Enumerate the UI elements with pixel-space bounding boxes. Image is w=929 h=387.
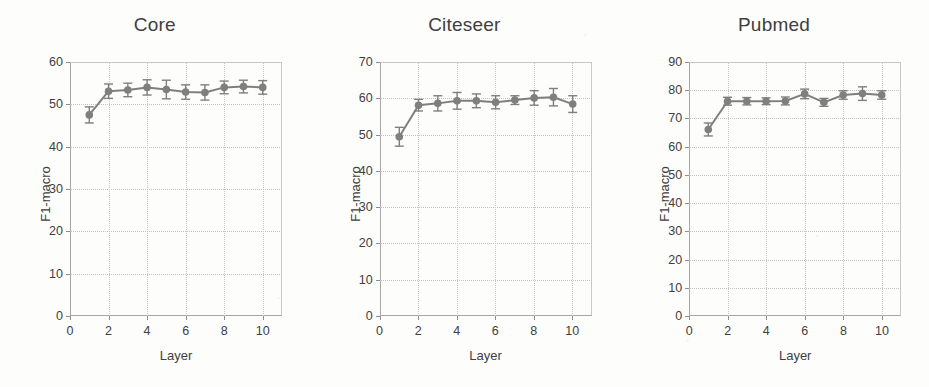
x-tick-label: 8	[530, 324, 537, 338]
y-tick-label: 50	[359, 128, 373, 142]
data-point-marker	[201, 89, 209, 97]
x-tick-mark	[186, 316, 187, 320]
data-point-marker	[395, 133, 403, 141]
x-axis-title-citeseer: Layer	[380, 348, 592, 363]
y-tick-label: 60	[359, 91, 373, 105]
y-tick-label: 20	[359, 236, 373, 250]
plot-area-core: 01020304050600246810	[70, 62, 282, 316]
data-point-marker	[820, 99, 828, 107]
data-point-marker	[414, 101, 422, 109]
chart-panel-citeseer: Citeseer F1-macro 0102030405060700246810…	[310, 0, 620, 387]
y-tick-label: 60	[49, 55, 63, 69]
data-point-marker	[782, 97, 790, 105]
x-tick-mark	[728, 316, 729, 320]
data-point-marker	[705, 126, 713, 134]
y-tick-label: 30	[49, 182, 63, 196]
y-tick-label: 40	[359, 164, 373, 178]
chart-panel-core: Core F1-macro 01020304050600246810 Layer	[0, 0, 310, 387]
data-point-marker	[859, 90, 867, 98]
data-point-marker	[549, 93, 557, 101]
x-tick-mark	[843, 316, 844, 320]
data-line	[89, 87, 262, 115]
data-point-marker	[511, 96, 519, 104]
data-point-marker	[124, 86, 132, 94]
y-tick-label: 70	[359, 55, 373, 69]
chart-panel-pubmed: Pubmed F1-macro 010203040506070809002468…	[619, 0, 929, 387]
figure-panel-row: Core F1-macro 01020304050600246810 Layer…	[0, 0, 929, 387]
y-tick-label: 0	[366, 309, 373, 323]
x-axis-title-pubmed: Layer	[689, 348, 901, 363]
data-point-marker	[259, 84, 267, 92]
y-tick-label: 20	[668, 253, 682, 267]
x-tick-mark	[882, 316, 883, 320]
data-point-marker	[105, 87, 113, 95]
x-tick-mark	[109, 316, 110, 320]
data-point-marker	[85, 111, 93, 119]
x-tick-label: 4	[144, 324, 151, 338]
data-point-marker	[878, 91, 886, 99]
x-tick-label: 0	[376, 324, 383, 338]
x-tick-mark	[147, 316, 148, 320]
x-tick-mark	[766, 316, 767, 320]
plot-area-citeseer: 0102030405060700246810	[380, 62, 592, 316]
data-point-marker	[530, 94, 538, 102]
data-point-marker	[453, 97, 461, 105]
x-tick-label: 2	[724, 324, 731, 338]
y-tick-label: 60	[668, 140, 682, 154]
x-tick-label: 10	[875, 324, 889, 338]
x-tick-mark	[224, 316, 225, 320]
x-tick-label: 6	[182, 324, 189, 338]
data-point-marker	[434, 100, 442, 108]
x-tick-label: 8	[840, 324, 847, 338]
x-tick-mark	[380, 316, 381, 320]
plot-area-pubmed: 01020304050607080900246810	[689, 62, 901, 316]
x-tick-label: 4	[453, 324, 460, 338]
x-tick-mark	[70, 316, 71, 320]
x-tick-label: 6	[492, 324, 499, 338]
y-tick-label: 10	[49, 267, 63, 281]
y-tick-label: 80	[668, 83, 682, 97]
series-line-citeseer	[380, 62, 592, 316]
data-point-marker	[240, 83, 248, 91]
data-point-marker	[840, 91, 848, 99]
x-tick-mark	[534, 316, 535, 320]
y-tick-label: 40	[49, 140, 63, 154]
y-tick-label: 90	[668, 55, 682, 69]
y-tick-label: 30	[668, 224, 682, 238]
chart-title-citeseer: Citeseer	[310, 14, 620, 36]
y-tick-label: 10	[668, 281, 682, 295]
y-tick-label: 40	[668, 196, 682, 210]
x-tick-label: 2	[415, 324, 422, 338]
x-tick-mark	[572, 316, 573, 320]
data-point-marker	[801, 90, 809, 98]
y-tick-label: 0	[675, 309, 682, 323]
data-point-marker	[743, 97, 751, 105]
x-tick-label: 2	[105, 324, 112, 338]
x-tick-mark	[805, 316, 806, 320]
series-line-pubmed	[689, 62, 901, 316]
data-point-marker	[491, 98, 499, 106]
data-point-marker	[182, 88, 190, 96]
x-tick-mark	[263, 316, 264, 320]
x-tick-mark	[495, 316, 496, 320]
x-tick-label: 0	[686, 324, 693, 338]
chart-title-pubmed: Pubmed	[619, 14, 929, 36]
x-tick-label: 6	[801, 324, 808, 338]
x-tick-label: 4	[763, 324, 770, 338]
x-tick-mark	[457, 316, 458, 320]
data-line	[708, 94, 881, 130]
data-line	[399, 97, 572, 137]
data-point-marker	[143, 84, 151, 92]
x-tick-label: 10	[256, 324, 270, 338]
y-tick-label: 50	[49, 97, 63, 111]
y-tick-label: 0	[56, 309, 63, 323]
chart-title-core: Core	[0, 14, 310, 36]
data-point-marker	[569, 100, 577, 108]
x-tick-label: 0	[67, 324, 74, 338]
data-point-marker	[163, 86, 171, 94]
data-point-marker	[724, 97, 732, 105]
x-tick-mark	[689, 316, 690, 320]
y-tick-label: 20	[49, 224, 63, 238]
x-tick-label: 8	[221, 324, 228, 338]
y-tick-label: 10	[359, 273, 373, 287]
